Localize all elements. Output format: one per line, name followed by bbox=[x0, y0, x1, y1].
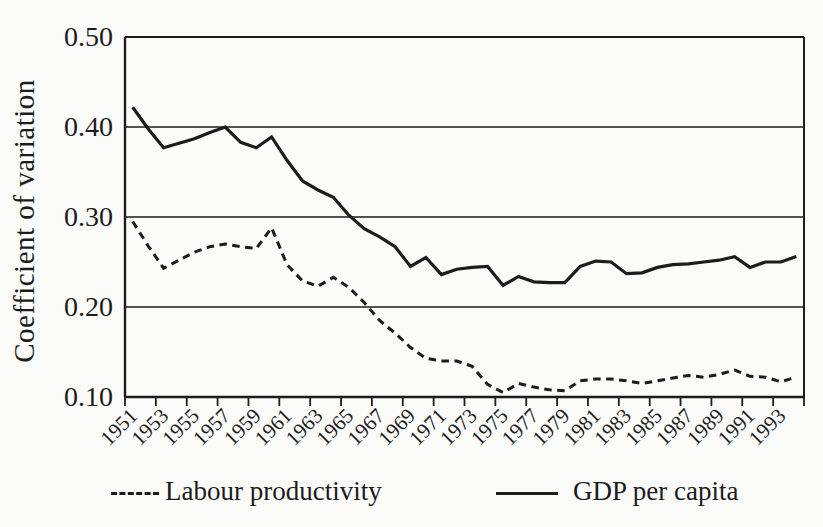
chart-canvas: 0.100.200.300.400.5019511953195519571959… bbox=[0, 0, 823, 527]
dashed-line-sample-icon bbox=[111, 492, 159, 495]
y-tick-label: 0.50 bbox=[64, 21, 113, 52]
y-axis-title: Coefficient of variation bbox=[8, 61, 48, 381]
y-tick-label: 0.30 bbox=[64, 201, 113, 232]
legend: Labour productivity GDP per capita bbox=[0, 476, 823, 520]
x-tick-label: 1993 bbox=[744, 404, 791, 451]
chart-figure: 0.100.200.300.400.5019511953195519571959… bbox=[0, 0, 823, 527]
series-line-gdp-per-capita bbox=[133, 107, 797, 285]
solid-line-sample-icon bbox=[496, 492, 558, 495]
y-tick-label: 0.10 bbox=[64, 381, 113, 412]
y-tick-label: 0.20 bbox=[64, 291, 113, 322]
legend-label-labour-productivity: Labour productivity bbox=[165, 476, 382, 507]
y-tick-label: 0.40 bbox=[64, 111, 113, 142]
legend-label-gdp-per-capita: GDP per capita bbox=[573, 476, 738, 507]
